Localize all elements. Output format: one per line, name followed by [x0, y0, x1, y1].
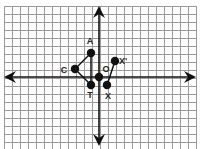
point-C	[71, 65, 79, 73]
coordinate-plane: ACTX'XO	[0, 0, 204, 149]
point-A	[87, 49, 95, 57]
label-Xp: X'	[119, 56, 127, 66]
label-A: A	[87, 36, 94, 46]
point-labels: ACTX'XO	[61, 36, 127, 101]
label-O: O	[102, 64, 109, 74]
point-T	[87, 81, 95, 89]
label-T: T	[87, 90, 93, 100]
point-X	[103, 81, 111, 89]
coordinate-grid-svg: ACTX'XO	[0, 0, 204, 149]
point-O	[95, 73, 103, 81]
label-C: C	[61, 65, 68, 75]
label-X: X	[105, 91, 111, 101]
